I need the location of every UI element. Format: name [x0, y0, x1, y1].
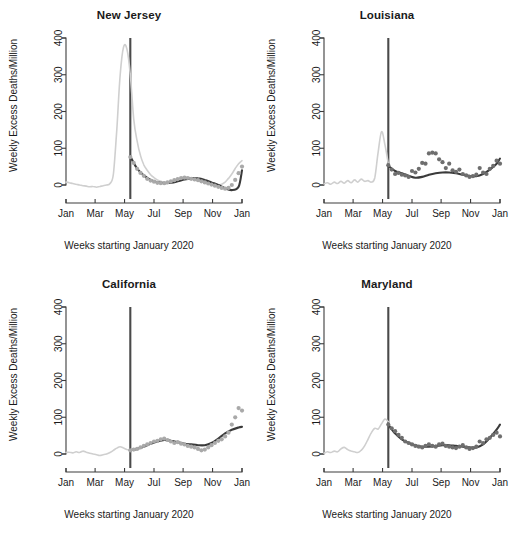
- y-tick-label: 300: [311, 335, 322, 352]
- y-tick-label: 0: [53, 182, 64, 188]
- plot-svg: 0100200300400JanMarMayJulSepNovJan: [258, 0, 516, 269]
- y-tick-label: 0: [311, 182, 322, 188]
- y-tick-label: 0: [53, 451, 64, 457]
- data-point: [417, 167, 421, 171]
- x-tick-label: Jul: [406, 208, 419, 219]
- chart-panel-louisiana: Louisiana Weekly Excess Deaths/Million 0…: [258, 0, 516, 269]
- x-tick-label: May: [373, 208, 392, 219]
- data-point: [233, 415, 237, 419]
- data-point: [390, 426, 394, 430]
- data-point: [491, 164, 495, 168]
- y-tick-label: 200: [53, 372, 64, 389]
- y-tick-label: 400: [53, 298, 64, 315]
- data-point: [440, 160, 444, 164]
- x-tick-label: Jan: [492, 477, 508, 488]
- data-point: [484, 172, 488, 176]
- y-tick-label: 400: [311, 29, 322, 46]
- x-tick-label: Sep: [174, 208, 192, 219]
- data-point: [386, 423, 390, 427]
- data-point: [223, 434, 227, 438]
- data-point: [396, 433, 400, 437]
- observed-curve: [66, 447, 130, 456]
- x-tick-label: Mar: [344, 477, 362, 488]
- x-axis-label: Weeks starting January 2020: [0, 509, 258, 520]
- data-point: [226, 431, 230, 435]
- data-point: [413, 170, 417, 174]
- y-tick-label: 0: [311, 451, 322, 457]
- data-point: [233, 178, 237, 182]
- observed-curve: [324, 419, 388, 453]
- data-point: [128, 155, 132, 159]
- observed-curve: [66, 45, 242, 188]
- y-tick-label: 400: [53, 29, 64, 46]
- x-axis-label: Weeks starting January 2020: [0, 240, 258, 251]
- x-tick-label: Jul: [406, 477, 419, 488]
- data-point: [498, 434, 502, 438]
- data-point: [386, 163, 390, 167]
- x-tick-label: Sep: [432, 208, 450, 219]
- x-axis-label: Weeks starting January 2020: [258, 240, 516, 251]
- data-point: [478, 166, 482, 170]
- x-axis-label: Weeks starting January 2020: [258, 509, 516, 520]
- data-point: [138, 171, 142, 175]
- scatter-points: [128, 406, 244, 452]
- plot-svg: 0100200300400JanMarMayJulSepNovJan: [258, 269, 516, 538]
- x-tick-label: Mar: [344, 208, 362, 219]
- x-tick-label: May: [115, 477, 134, 488]
- figure-grid: New Jersey Weekly Excess Deaths/Million …: [0, 0, 516, 538]
- y-tick-label: 200: [311, 372, 322, 389]
- data-point: [488, 436, 492, 440]
- chart-panel-maryland: Maryland Weekly Excess Deaths/Million 01…: [258, 269, 516, 538]
- data-point: [457, 168, 461, 172]
- data-point: [481, 441, 485, 445]
- x-tick-label: May: [115, 208, 134, 219]
- x-tick-label: Nov: [204, 208, 222, 219]
- y-tick-label: 300: [53, 335, 64, 352]
- y-tick-label: 300: [311, 66, 322, 83]
- y-tick-label: 100: [53, 139, 64, 156]
- data-point: [142, 174, 146, 178]
- data-point: [400, 436, 404, 440]
- data-point: [132, 161, 136, 165]
- plot-svg: 0100200300400JanMarMayJulSepNovJan: [0, 269, 258, 538]
- y-tick-label: 200: [53, 103, 64, 120]
- data-point: [498, 162, 502, 166]
- data-point: [240, 409, 244, 413]
- y-tick-label: 300: [53, 66, 64, 83]
- data-point: [230, 183, 234, 187]
- observed-curve: [324, 132, 388, 185]
- data-point: [434, 445, 438, 449]
- y-tick-label: 200: [311, 103, 322, 120]
- y-tick-label: 100: [53, 408, 64, 425]
- data-point: [447, 162, 451, 166]
- x-tick-label: Nov: [462, 208, 480, 219]
- data-point: [495, 431, 499, 435]
- data-point: [444, 166, 448, 170]
- data-point: [437, 157, 441, 161]
- data-point: [393, 429, 397, 433]
- data-point: [495, 159, 499, 163]
- data-point: [220, 437, 224, 441]
- x-tick-label: Jan: [58, 477, 74, 488]
- x-tick-label: Sep: [174, 477, 192, 488]
- data-point: [240, 165, 244, 169]
- chart-panel-new-jersey: New Jersey Weekly Excess Deaths/Million …: [0, 0, 258, 269]
- x-tick-label: Nov: [204, 477, 222, 488]
- x-tick-label: Jan: [58, 208, 74, 219]
- plot-svg: 0100200300400JanMarMayJulSepNovJan: [0, 0, 258, 269]
- data-point: [237, 171, 241, 175]
- x-tick-label: Nov: [462, 477, 480, 488]
- chart-panel-california: California Weekly Excess Deaths/Million …: [0, 269, 258, 538]
- x-tick-label: Mar: [86, 208, 104, 219]
- x-tick-label: Jul: [148, 477, 161, 488]
- data-point: [474, 173, 478, 177]
- x-tick-label: Jan: [234, 477, 250, 488]
- data-point: [135, 167, 139, 171]
- data-point: [423, 162, 427, 166]
- fitted-curve: [130, 156, 242, 190]
- scatter-points: [128, 155, 244, 191]
- x-tick-label: Jan: [492, 208, 508, 219]
- scatter-points: [386, 151, 502, 179]
- y-tick-label: 400: [311, 298, 322, 315]
- x-tick-label: Jan: [316, 477, 332, 488]
